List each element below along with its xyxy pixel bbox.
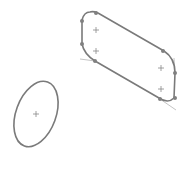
sketch-point[interactable] [94,11,98,15]
center-marker-icon [158,65,164,71]
ellipse-shape[interactable] [6,75,67,153]
rounded-slot-shape[interactable] [80,11,177,110]
sketch-point[interactable] [158,97,162,101]
sketch-canvas [0,0,190,172]
center-marker-icon [33,111,39,117]
center-marker-icon [93,27,99,33]
sketch-point[interactable] [93,59,97,63]
center-marker-icon [158,86,164,92]
sketch-point[interactable] [80,42,84,46]
sketch-point[interactable] [161,49,165,53]
center-marker-icon [93,48,99,54]
sketch-point[interactable] [173,96,177,100]
sketch-point[interactable] [173,71,177,75]
sketch-point[interactable] [80,19,84,23]
